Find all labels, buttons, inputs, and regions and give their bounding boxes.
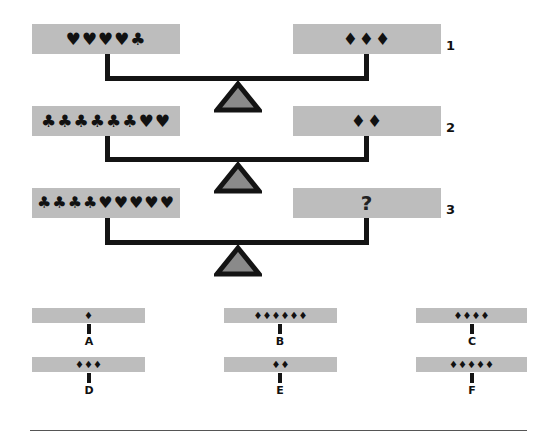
option-f-bar: ♦♦♦♦♦ bbox=[416, 357, 527, 372]
option-c-bar: ♦♦♦♦ bbox=[416, 308, 527, 323]
option-a-label: A bbox=[79, 335, 99, 348]
option-b-symbols: ♦♦♦♦♦♦ bbox=[254, 311, 308, 321]
unknown-answer-mark: ? bbox=[361, 193, 374, 213]
triangle-fulcrum-icon bbox=[214, 245, 262, 277]
left-pan-2-symbols: ♣♣♣♣♣♣♥♥ bbox=[41, 113, 171, 130]
right-pan-1: ♦♦♦ bbox=[293, 24, 441, 54]
option-e-stem bbox=[278, 373, 282, 383]
option-a-bar: ♦ bbox=[32, 308, 145, 323]
left-pan-2: ♣♣♣♣♣♣♥♥ bbox=[32, 106, 180, 136]
option-f-stem bbox=[470, 373, 474, 383]
right-pan-2: ♦♦ bbox=[293, 106, 441, 136]
option-a-symbols: ♦ bbox=[84, 311, 93, 321]
row-number-1: 1 bbox=[446, 38, 455, 53]
left-pan-3-symbols: ♣♣♣♣♥♥♥♥♥ bbox=[37, 195, 175, 211]
left-pan-3: ♣♣♣♣♥♥♥♥♥ bbox=[32, 188, 180, 218]
option-e-label: E bbox=[270, 384, 290, 397]
option-a-stem bbox=[87, 324, 91, 334]
option-d-label: D bbox=[79, 384, 99, 397]
triangle-fulcrum-icon bbox=[214, 81, 262, 113]
option-d-stem bbox=[87, 373, 91, 383]
option-b-bar: ♦♦♦♦♦♦ bbox=[224, 308, 337, 323]
option-e-symbols: ♦♦ bbox=[272, 360, 290, 370]
option-d-bar: ♦♦♦ bbox=[32, 357, 145, 372]
row-number-2: 2 bbox=[446, 120, 455, 135]
option-e-bar: ♦♦ bbox=[224, 357, 337, 372]
row-number-3: 3 bbox=[446, 202, 455, 217]
bottom-divider bbox=[30, 430, 527, 431]
left-pan-1: ♥♥♥♥♣ bbox=[32, 24, 180, 54]
option-d-symbols: ♦♦♦ bbox=[75, 360, 102, 370]
left-pan-1-symbols: ♥♥♥♥♣ bbox=[65, 31, 146, 48]
right-pan-3: ? bbox=[293, 188, 441, 218]
option-f-label: F bbox=[462, 384, 482, 397]
option-c-symbols: ♦♦♦♦ bbox=[454, 311, 490, 321]
option-b-stem bbox=[278, 324, 282, 334]
option-c-stem bbox=[470, 324, 474, 334]
option-c-label: C bbox=[462, 335, 482, 348]
option-b-label: B bbox=[270, 335, 290, 348]
right-pan-1-symbols: ♦♦♦ bbox=[343, 31, 392, 48]
triangle-fulcrum-icon bbox=[214, 162, 262, 194]
right-pan-2-symbols: ♦♦ bbox=[351, 113, 383, 130]
option-f-symbols: ♦♦♦♦♦ bbox=[449, 360, 494, 370]
